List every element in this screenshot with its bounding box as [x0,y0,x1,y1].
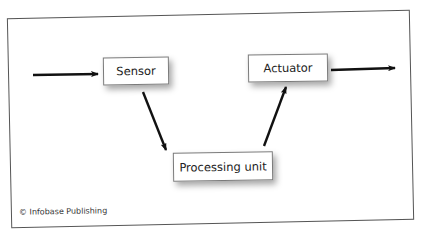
arrow-input-to-sensor [33,74,98,75]
sensor-box: Sensor [103,57,169,86]
processing-unit-label: Processing unit [179,159,267,174]
actuator-label: Actuator [263,61,312,76]
diagram-canvas: Sensor Actuator Processing unit © Infoba… [0,0,422,236]
copyright-credit: © Infobase Publishing [19,206,107,217]
sensor-label: Sensor [116,64,156,79]
processing-unit-box: Processing unit [173,151,273,181]
arrow-actuator-to-output [331,68,395,70]
actuator-box: Actuator [248,53,328,82]
arrow-sensor-to-processing [143,92,166,150]
arrow-processing-to-actuator [264,87,286,146]
arrows-layer [0,0,422,236]
